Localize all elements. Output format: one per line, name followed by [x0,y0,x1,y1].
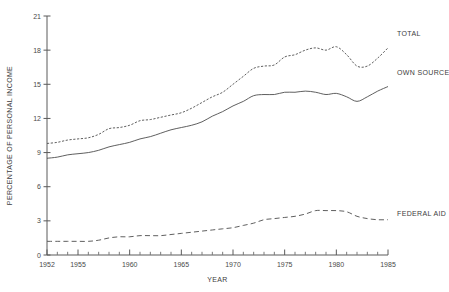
series-label-federal-aid: FEDERAL AID [397,210,446,217]
series-label-total: TOTAL [397,30,421,37]
series-line-total [47,47,388,144]
x-tick-label: 1955 [70,261,86,268]
y-tick-label: 18 [33,47,41,54]
y-tick-label: 15 [33,81,41,88]
x-tick-label: 1980 [329,261,345,268]
chart-figure: 0369121518211952195519601965197019751980… [0,0,449,292]
x-tick-label: 1970 [225,261,241,268]
y-tick-label: 6 [37,183,41,190]
x-tick-label: 1965 [174,261,190,268]
y-axis-title: PERCENTAGE OF PERSONAL INCOME [6,66,13,205]
x-tick-label: 1985 [380,261,396,268]
x-tick-label: 1952 [39,261,55,268]
x-axis-title: YEAR [207,276,227,283]
series-label-own-source: OWN SOURCE [397,69,449,76]
x-tick-label: 1960 [122,261,138,268]
y-tick-label: 9 [37,149,41,156]
line-chart-canvas: 0369121518211952195519601965197019751980… [0,0,449,292]
series-line-own-source [47,87,388,159]
series-line-federal-aid [47,210,388,241]
y-tick-label: 3 [37,217,41,224]
y-tick-label: 21 [33,13,41,20]
y-tick-label: 12 [33,115,41,122]
y-tick-label: 0 [37,252,41,259]
x-tick-label: 1975 [277,261,293,268]
